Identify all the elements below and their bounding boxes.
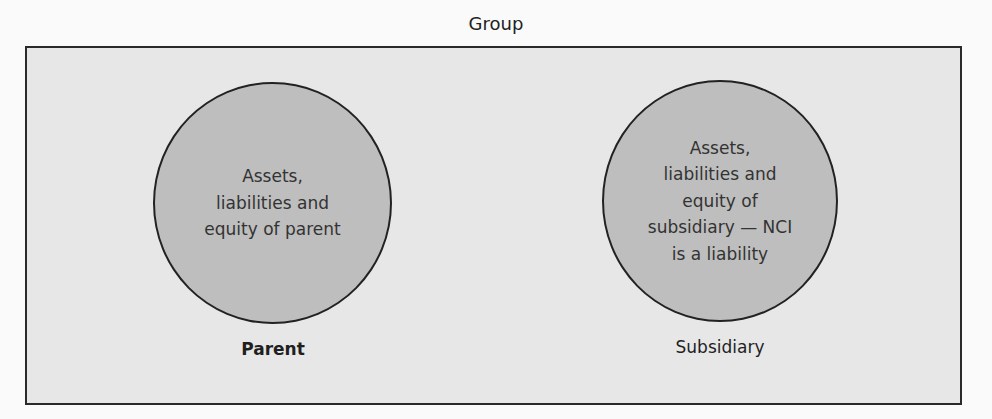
subsidiary-label: Subsidiary (600, 336, 840, 358)
subsidiary-description-line: is a liability (648, 241, 792, 268)
parent-description-line: equity of parent (204, 216, 340, 243)
group-title: Group (0, 12, 992, 36)
subsidiary-description-line: liabilities and (648, 161, 792, 188)
subsidiary-description-line: Assets, (648, 135, 792, 162)
subsidiary-description-line: equity of (648, 188, 792, 215)
parent-entity-circle: Assets, liabilities and equity of parent (153, 82, 392, 324)
subsidiary-entity-circle: Assets, liabilities and equity of subsid… (602, 80, 838, 322)
parent-description-line: liabilities and (204, 190, 340, 217)
subsidiary-description: Assets, liabilities and equity of subsid… (648, 135, 792, 268)
parent-description-line: Assets, (204, 163, 340, 190)
subsidiary-description-line: subsidiary — NCI (648, 214, 792, 241)
parent-label: Parent (153, 338, 393, 360)
group-boundary-box: Assets, liabilities and equity of parent… (25, 46, 962, 405)
parent-description: Assets, liabilities and equity of parent (204, 163, 340, 243)
